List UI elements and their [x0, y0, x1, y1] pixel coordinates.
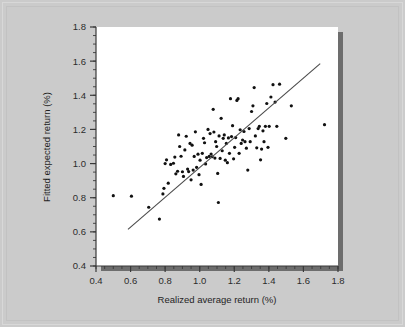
- scatter-point: [217, 201, 220, 204]
- scatter-point: [231, 124, 234, 127]
- scatter-chart: 0.40.60.81.01.21.41.61.8 0.40.60.81.01.2…: [0, 0, 405, 327]
- scatter-point: [269, 95, 272, 98]
- scatter-point: [212, 108, 215, 111]
- scatter-point: [240, 142, 243, 145]
- scatter-point: [245, 147, 248, 150]
- scatter-point: [172, 162, 175, 165]
- scatter-point: [266, 146, 269, 149]
- scatter-point: [181, 170, 184, 173]
- scatter-point: [169, 163, 172, 166]
- x-axis-title: Realized average return (%): [158, 294, 277, 305]
- scatter-point: [212, 130, 215, 133]
- y-tick-label: 0.6: [73, 226, 86, 237]
- y-tick-label: 0.8: [73, 192, 86, 203]
- scatter-point: [223, 133, 226, 136]
- scatter-point: [271, 83, 274, 86]
- scatter-point: [194, 130, 197, 133]
- y-tick-label: 1.2: [73, 124, 86, 135]
- scatter-point: [164, 162, 167, 165]
- scatter-point: [251, 104, 254, 107]
- x-tick-label: 1.4: [262, 275, 275, 286]
- scatter-point: [219, 157, 222, 160]
- scatter-point: [232, 157, 235, 160]
- scatter-point: [214, 140, 217, 143]
- x-tick-label: 1.2: [228, 275, 241, 286]
- scatter-point: [197, 173, 200, 176]
- scatter-point: [249, 140, 252, 143]
- scatter-point: [323, 123, 326, 126]
- scatter-point: [178, 145, 181, 148]
- y-tick-label: 1.4: [73, 90, 86, 101]
- scatter-point: [227, 136, 230, 139]
- scatter-point: [220, 117, 223, 120]
- scatter-point: [147, 206, 150, 209]
- scatter-point: [226, 161, 229, 164]
- scatter-point: [248, 127, 251, 130]
- scatter-point: [176, 170, 179, 173]
- axes-group: 0.40.60.81.01.21.41.61.8 0.40.60.81.01.2…: [73, 21, 345, 286]
- scatter-point: [195, 166, 198, 169]
- scatter-point: [222, 137, 225, 140]
- scatter-point: [158, 217, 161, 220]
- scatter-point: [208, 132, 211, 135]
- scatter-point: [196, 153, 199, 156]
- scatter-point: [275, 125, 278, 128]
- x-tick-label: 0.4: [89, 275, 102, 286]
- scatter-point: [264, 125, 267, 128]
- scatter-point: [236, 97, 239, 100]
- scatter-point: [228, 152, 231, 155]
- scatter-point: [243, 140, 246, 143]
- scatter-point: [284, 137, 287, 140]
- scatter-point: [112, 194, 115, 197]
- x-tick-label: 1.8: [331, 275, 344, 286]
- scatter-point: [192, 168, 195, 171]
- y-tick-label: 1.8: [73, 21, 86, 32]
- scatter-point: [187, 170, 190, 173]
- x-tick-label: 0.6: [124, 275, 137, 286]
- y-tick-label: 1.0: [73, 158, 86, 169]
- scatter-point: [239, 128, 242, 131]
- scatter-point: [202, 137, 205, 140]
- scatter-point: [198, 159, 201, 162]
- scatter-point: [224, 159, 227, 162]
- scatter-point: [206, 128, 209, 131]
- scatter-point: [217, 134, 220, 137]
- scatter-point: [193, 155, 196, 158]
- scatter-point: [185, 135, 188, 138]
- scatter-point: [130, 195, 133, 198]
- scatter-point: [262, 140, 265, 143]
- scatter-point: [253, 86, 256, 89]
- scatter-point: [290, 104, 293, 107]
- scatter-point: [203, 141, 206, 144]
- scatter-point: [167, 182, 170, 185]
- y-tick-label: 0.4: [73, 260, 86, 271]
- scatter-point: [250, 110, 253, 113]
- scatter-point: [200, 183, 203, 186]
- minor-ticks: [93, 27, 338, 269]
- scatter-point: [191, 144, 194, 147]
- scatter-point: [189, 178, 192, 181]
- y-tick-labels: 0.40.60.81.01.21.41.61.8: [73, 21, 86, 271]
- major-ticks: [90, 27, 338, 272]
- x-tick-labels: 0.40.60.81.01.21.41.61.8: [89, 275, 344, 286]
- scatter-point: [215, 145, 218, 148]
- scatter-point: [255, 146, 258, 149]
- scatter-point: [278, 83, 281, 86]
- scatter-point: [260, 147, 263, 150]
- scatter-point: [258, 125, 261, 128]
- scatter-point: [216, 172, 219, 175]
- scatter-point: [259, 158, 262, 161]
- scatter-point: [268, 125, 271, 128]
- y-tick-label: 1.6: [73, 56, 86, 67]
- scatter-point: [182, 175, 185, 178]
- scatter-point: [233, 146, 236, 149]
- figure-container: 0.40.60.81.01.21.41.61.8 0.40.60.81.01.2…: [0, 0, 405, 327]
- scatter-point: [265, 102, 268, 105]
- scatter-point: [229, 97, 232, 100]
- scatter-point: [183, 148, 186, 151]
- y-axis-title: Fitted expected return (%): [41, 92, 52, 202]
- scatter-point: [177, 133, 180, 136]
- scatter-point: [162, 187, 165, 190]
- scatter-point: [238, 152, 241, 155]
- x-tick-label: 0.8: [159, 275, 172, 286]
